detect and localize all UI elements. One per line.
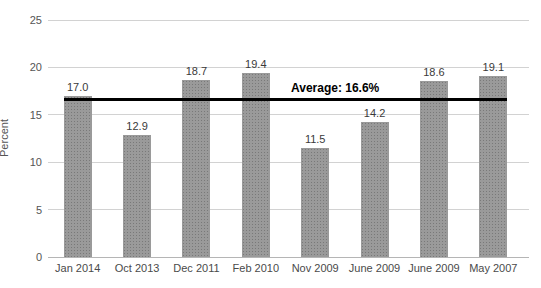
bar-value-label: 17.0 (54, 81, 102, 93)
bar-value-label: 12.9 (113, 120, 161, 132)
bar (123, 135, 151, 257)
bar (420, 81, 448, 257)
y-tick-label: 10 (0, 156, 42, 168)
bar (479, 76, 507, 257)
bar (361, 122, 389, 257)
y-tick-label: 20 (0, 61, 42, 73)
y-tick-label: 5 (0, 204, 42, 216)
bar-value-label: 18.7 (172, 65, 220, 77)
average-line (64, 98, 508, 101)
gridline-y25 (48, 20, 529, 21)
y-tick-label: 0 (0, 251, 42, 263)
y-tick-label: 25 (0, 14, 42, 26)
bar (182, 80, 210, 257)
bar-value-label: 19.4 (232, 58, 280, 70)
plot-area: Average: 16.6% 17.012.918.719.411.514.21… (48, 20, 523, 257)
bar-value-label: 19.1 (469, 61, 517, 73)
gridline-y15 (48, 114, 529, 115)
average-line-label: Average: 16.6% (291, 81, 379, 95)
bar-value-label: 11.5 (291, 133, 339, 145)
bar-value-label: 18.6 (410, 66, 458, 78)
x-tick-label: May 2007 (458, 262, 528, 274)
bar-chart-figure: Percent Average: 16.6% 17.012.918.719.41… (0, 0, 541, 288)
gridline-y10 (48, 162, 529, 163)
bar-value-label: 14.2 (351, 107, 399, 119)
y-tick-label: 15 (0, 109, 42, 121)
bar (301, 148, 329, 257)
gridline-y0 (48, 257, 529, 258)
gridline-y5 (48, 209, 529, 210)
bar (64, 96, 92, 257)
